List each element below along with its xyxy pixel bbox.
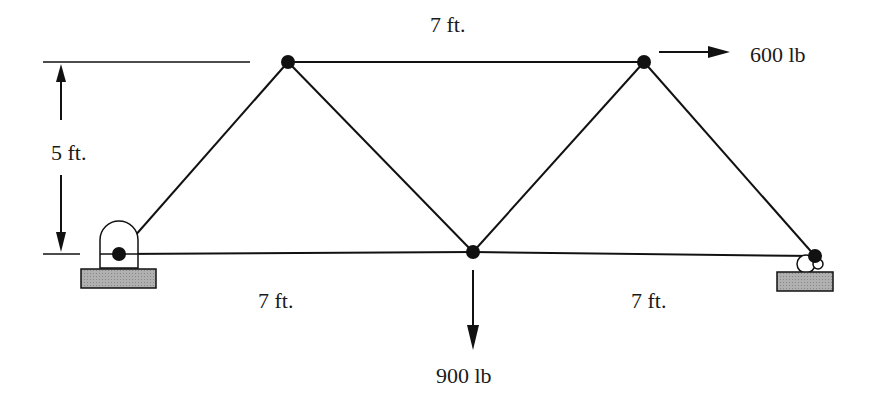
- vertical-load-label: 900 lb: [436, 363, 492, 389]
- bottom-left-span-label: 7 ft.: [258, 288, 293, 314]
- vertical-load-arrow: [467, 270, 479, 350]
- truss-joints: [112, 55, 822, 263]
- horizontal-load-arrow: [659, 46, 730, 58]
- truss-diagram: [0, 0, 873, 408]
- truss-members: [119, 62, 815, 256]
- height-label: 5 ft.: [51, 140, 86, 166]
- horizontal-load-label: 600 lb: [750, 42, 806, 68]
- bottom-right-span-label: 7 ft.: [631, 288, 666, 314]
- top-span-label: 7 ft.: [430, 12, 465, 38]
- roller-support: [777, 255, 833, 291]
